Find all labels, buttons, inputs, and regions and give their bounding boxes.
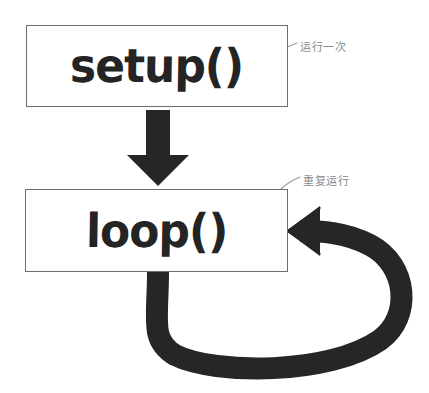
setup-node: setup() xyxy=(26,25,288,107)
loop-node-label: loop() xyxy=(85,207,227,254)
diagram-canvas: setup() loop() 运行一次 重复运行 xyxy=(0,0,429,393)
callout-repeat-label: 重复运行 xyxy=(303,172,349,188)
setup-to-loop-arrow xyxy=(127,110,189,186)
callout-run-once-label: 运行一次 xyxy=(300,38,346,54)
setup-node-label: setup() xyxy=(70,43,244,90)
loop-node: loop() xyxy=(25,189,288,272)
